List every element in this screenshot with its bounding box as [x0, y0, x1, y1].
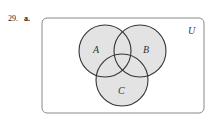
set-c-label: C	[118, 85, 125, 96]
set-b-label: B	[143, 44, 149, 55]
set-a-label: A	[92, 44, 100, 55]
universe-label: U	[188, 25, 196, 36]
venn-diagram: A B C U	[0, 0, 210, 118]
